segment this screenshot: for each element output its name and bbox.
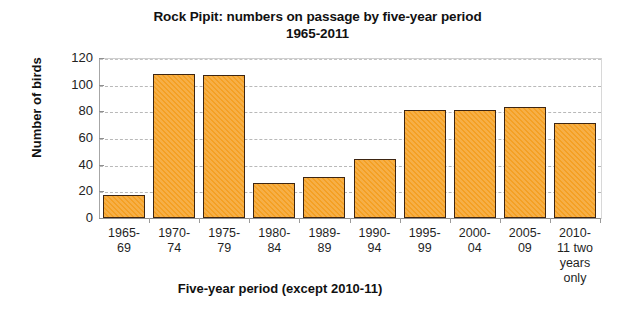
x-axis-tick-label-line: 04 — [450, 241, 500, 256]
y-axis-tick-label: 0 — [49, 210, 93, 225]
y-axis-tick-mark — [99, 165, 104, 166]
chart-title-line-2: 1965-2011 — [0, 25, 635, 42]
y-axis-tick-labels: 020406080100120 — [45, 58, 93, 218]
x-axis-tick-label-line: 11 two — [550, 241, 600, 256]
x-axis-tick-label: 1965-69 — [99, 226, 149, 256]
bar-slot — [400, 58, 450, 218]
x-axis-tick-mark — [450, 218, 451, 223]
x-axis-tick-label-line: 74 — [149, 241, 199, 256]
x-axis-tick-label-line: 1970- — [149, 226, 199, 241]
x-axis-tick-label: 2000-04 — [450, 226, 500, 256]
x-axis-tick-mark — [199, 218, 200, 223]
bar-slot — [550, 58, 600, 218]
y-axis-tick-mark — [99, 191, 104, 192]
x-axis-tick-label-line: 99 — [400, 241, 450, 256]
bar[interactable] — [454, 110, 496, 218]
x-axis-tick-mark — [500, 218, 501, 223]
bar[interactable] — [103, 195, 145, 218]
x-axis-tick-label: 1975-79 — [199, 226, 249, 256]
y-axis-tick-mark — [99, 58, 104, 59]
bar[interactable] — [504, 107, 546, 218]
x-axis-tick-label-line: only — [550, 271, 600, 286]
y-axis-tick-mark — [99, 138, 104, 139]
x-axis-tick-label: 2010-11 twoyearsonly — [550, 226, 600, 286]
x-axis-tick-label-line: 1975- — [199, 226, 249, 241]
x-axis-tick-label-line: 1995- — [400, 226, 450, 241]
bar[interactable] — [253, 183, 295, 218]
bar-slot — [249, 58, 299, 218]
x-axis-tick-label-line: 2010- — [550, 226, 600, 241]
x-axis-tick-mark — [600, 218, 601, 223]
x-axis-tick-mark — [350, 218, 351, 223]
bar-slot — [350, 58, 400, 218]
bar-slot — [500, 58, 550, 218]
x-axis-tick-label-line: years — [550, 256, 600, 271]
x-axis-tick-label: 1989-89 — [299, 226, 349, 256]
x-axis-tick-label: 1970-74 — [149, 226, 199, 256]
y-axis-tick-label: 40 — [49, 157, 93, 172]
y-axis-tick-label: 100 — [49, 77, 93, 92]
x-axis-tick-label-line: 1990- — [350, 226, 400, 241]
x-axis-tick-label-line: 1989- — [299, 226, 349, 241]
bar-slot — [199, 58, 249, 218]
x-axis-tick-label-line: 1980- — [249, 226, 299, 241]
y-axis-title: Number of birds — [29, 38, 44, 178]
x-axis-tick-mark — [299, 218, 300, 223]
x-axis-title: Five-year period (except 2010-11) — [60, 281, 500, 296]
chart-title-line-1: Rock Pipit: numbers on passage by five-y… — [153, 9, 481, 24]
bar[interactable] — [404, 110, 446, 218]
x-axis-tick-label-line: 2005- — [500, 226, 550, 241]
x-axis-tick-label-line: 94 — [350, 241, 400, 256]
bar-series — [99, 58, 600, 218]
x-axis-tick-label-line: 1965- — [99, 226, 149, 241]
y-axis-tick-label: 20 — [49, 183, 93, 198]
y-axis-tick-mark — [99, 85, 104, 86]
x-axis-tick-label-line: 89 — [299, 241, 349, 256]
bar[interactable] — [354, 159, 396, 218]
bar-slot — [149, 58, 199, 218]
bar-slot — [450, 58, 500, 218]
x-axis-tick-label: 2005-09 — [500, 226, 550, 256]
chart-title: Rock Pipit: numbers on passage by five-y… — [0, 8, 635, 42]
bar-slot — [99, 58, 149, 218]
bar[interactable] — [203, 75, 245, 218]
y-axis-tick-label: 120 — [49, 50, 93, 65]
x-axis-tick-mark — [550, 218, 551, 223]
x-axis-tick-label-line: 79 — [199, 241, 249, 256]
x-axis-tick-label: 1980-84 — [249, 226, 299, 256]
x-axis-tick-mark — [400, 218, 401, 223]
x-axis-tick-label-line: 2000- — [450, 226, 500, 241]
x-axis-tick-mark — [249, 218, 250, 223]
x-axis-tick-labels: 1965-691970-741975-791980-841989-891990-… — [99, 226, 600, 318]
bar[interactable] — [554, 123, 596, 218]
y-axis-tick-label: 80 — [49, 103, 93, 118]
bar[interactable] — [303, 177, 345, 218]
x-axis-tick-label-line: 09 — [500, 241, 550, 256]
x-axis-tick-label: 1995-99 — [400, 226, 450, 256]
y-axis-tick-mark — [99, 111, 104, 112]
x-axis-tick-label-line: 69 — [99, 241, 149, 256]
bar[interactable] — [153, 74, 195, 218]
x-axis-tick-mark — [149, 218, 150, 223]
bar-slot — [299, 58, 349, 218]
bar-chart: Rock Pipit: numbers on passage by five-y… — [0, 0, 635, 324]
x-axis-tick-label: 1990-94 — [350, 226, 400, 256]
y-axis-tick-mark — [99, 218, 104, 219]
y-axis-tick-label: 60 — [49, 130, 93, 145]
x-axis-tick-label-line: 84 — [249, 241, 299, 256]
